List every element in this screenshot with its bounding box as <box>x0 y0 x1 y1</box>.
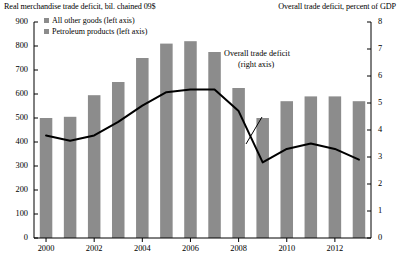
y2-axis-tick-label: 2 <box>378 179 394 188</box>
bar <box>160 44 173 238</box>
x-axis-tick-label: 2000 <box>38 244 55 253</box>
plot-svg <box>0 0 400 262</box>
bar <box>64 117 77 238</box>
y-axis-tick-label: 500 <box>4 113 28 122</box>
x-axis-tick-label: 2010 <box>278 244 295 253</box>
bar <box>353 101 366 238</box>
x-axis-tick-label: 2008 <box>230 244 247 253</box>
bar <box>136 58 149 238</box>
y-axis-tick-label: 300 <box>4 161 28 170</box>
bar <box>256 118 269 238</box>
y-axis-tick-label: 400 <box>4 137 28 146</box>
y2-axis-tick-label: 7 <box>378 44 394 53</box>
axis-ticks <box>34 22 371 242</box>
y-axis-tick-label: 0 <box>4 233 28 242</box>
y-axis-tick-label: 900 <box>4 17 28 26</box>
y-axis-tick-label: 600 <box>4 89 28 98</box>
y2-axis-tick-label: 8 <box>378 17 394 26</box>
y-axis-tick-label: 200 <box>4 185 28 194</box>
y-axis-tick-label: 100 <box>4 209 28 218</box>
x-axis-tick-label: 2012 <box>327 244 344 253</box>
y2-axis-tick-label: 3 <box>378 152 394 161</box>
y2-axis-tick-label: 6 <box>378 71 394 80</box>
y-axis-tick-label: 700 <box>4 65 28 74</box>
x-axis-tick-label: 2006 <box>182 244 199 253</box>
bar <box>88 95 101 238</box>
x-axis-tick-label: 2004 <box>134 244 151 253</box>
axis-frame <box>34 22 371 238</box>
y2-axis-tick-label: 1 <box>378 206 394 215</box>
bar <box>329 96 342 238</box>
bar-series <box>40 41 365 238</box>
bar <box>112 82 125 238</box>
bar <box>305 96 318 238</box>
bar <box>184 41 197 238</box>
bar <box>280 101 293 238</box>
x-axis-tick-label: 2002 <box>86 244 103 253</box>
y2-axis-tick-label: 4 <box>378 125 394 134</box>
y-axis-tick-label: 800 <box>4 41 28 50</box>
y2-axis-tick-label: 0 <box>378 233 394 242</box>
chart-container: Real merchandise trade deficit, bil. cha… <box>0 0 400 262</box>
bar <box>208 52 221 238</box>
y2-axis-tick-label: 5 <box>378 98 394 107</box>
